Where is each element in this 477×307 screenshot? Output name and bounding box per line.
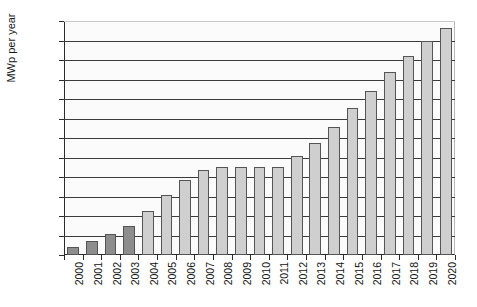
x-tick-label: 2016 bbox=[364, 262, 378, 302]
x-tick-label-text: 2006 bbox=[185, 262, 197, 285]
x-tick-label: 2005 bbox=[159, 262, 173, 302]
bar bbox=[309, 143, 321, 255]
bar bbox=[421, 41, 433, 255]
bar bbox=[86, 241, 98, 255]
x-tick-label-text: 2017 bbox=[390, 262, 402, 285]
x-tick-label-text: 2003 bbox=[129, 262, 141, 285]
bar bbox=[123, 226, 135, 255]
x-tick-label: 2004 bbox=[141, 262, 155, 302]
x-tick-mark bbox=[250, 255, 251, 260]
x-tick-label-text: 2013 bbox=[315, 262, 327, 285]
x-tick-label-text: 2019 bbox=[427, 262, 439, 285]
x-tick-mark bbox=[213, 255, 214, 260]
x-tick-label: 2008 bbox=[215, 262, 229, 302]
bar bbox=[216, 167, 228, 255]
x-tick-label-text: 2008 bbox=[222, 262, 234, 285]
x-tick-label: 2013 bbox=[308, 262, 322, 302]
x-tick-mark bbox=[399, 255, 400, 260]
x-tick-label: 2003 bbox=[122, 262, 136, 302]
bar bbox=[272, 167, 284, 255]
x-tick-label: 2001 bbox=[85, 262, 99, 302]
x-tick-mark bbox=[436, 255, 437, 260]
bar bbox=[291, 156, 303, 255]
bar bbox=[179, 180, 191, 255]
bar bbox=[67, 247, 79, 255]
x-tick-mark bbox=[101, 255, 102, 260]
x-tick-mark bbox=[287, 255, 288, 260]
x-tick-label: 2007 bbox=[197, 262, 211, 302]
x-tick-label-text: 2007 bbox=[204, 262, 216, 285]
x-tick-mark bbox=[232, 255, 233, 260]
x-tick-label: 2012 bbox=[290, 262, 304, 302]
bar bbox=[105, 234, 117, 255]
x-tick-mark bbox=[176, 255, 177, 260]
x-tick-label-text: 2015 bbox=[353, 262, 365, 285]
bar bbox=[384, 72, 396, 255]
x-tick-mark bbox=[64, 255, 65, 260]
x-tick-label-text: 2016 bbox=[371, 262, 383, 285]
bar bbox=[198, 170, 210, 255]
x-tick-mark bbox=[138, 255, 139, 260]
x-tick-label-text: 2005 bbox=[166, 262, 178, 285]
bar bbox=[403, 56, 415, 255]
x-tick-label: 2018 bbox=[401, 262, 415, 302]
bar bbox=[254, 167, 266, 255]
x-tick-label: 2011 bbox=[271, 262, 285, 302]
bar bbox=[161, 195, 173, 255]
x-tick-label: 2014 bbox=[327, 262, 341, 302]
x-tick-mark bbox=[455, 255, 456, 260]
bar-series bbox=[64, 21, 455, 255]
x-tick-mark bbox=[418, 255, 419, 260]
x-tick-label: 2015 bbox=[346, 262, 360, 302]
x-tick-label: 2002 bbox=[104, 262, 118, 302]
x-tick-label: 2020 bbox=[439, 262, 453, 302]
bar bbox=[440, 28, 452, 255]
x-tick-label-text: 2004 bbox=[148, 262, 160, 285]
x-tick-label-text: 2001 bbox=[92, 262, 104, 285]
x-tick-mark bbox=[381, 255, 382, 260]
x-tick-label-text: 2014 bbox=[334, 262, 346, 285]
x-tick-label-text: 2012 bbox=[297, 262, 309, 285]
x-tick-mark bbox=[120, 255, 121, 260]
bar bbox=[328, 127, 340, 255]
bar bbox=[142, 211, 154, 255]
bar bbox=[235, 167, 247, 255]
x-tick-label-text: 2000 bbox=[73, 262, 85, 285]
bar bbox=[347, 108, 359, 255]
x-tick-mark bbox=[194, 255, 195, 260]
x-tick-label: 2019 bbox=[420, 262, 434, 302]
x-tick-label: 2017 bbox=[383, 262, 397, 302]
y-axis-title-text: MWp per year bbox=[5, 13, 17, 82]
x-tick-label: 2000 bbox=[66, 262, 80, 302]
x-tick-mark bbox=[362, 255, 363, 260]
x-tick-mark bbox=[269, 255, 270, 260]
x-tick-label-text: 2018 bbox=[408, 262, 420, 285]
x-tick-mark bbox=[325, 255, 326, 260]
x-tick-label-text: 2010 bbox=[260, 262, 272, 285]
x-tick-label-text: 2020 bbox=[446, 262, 458, 285]
y-axis-title: MWp per year bbox=[0, 0, 22, 240]
x-tick-mark bbox=[83, 255, 84, 260]
x-tick-label: 2009 bbox=[234, 262, 248, 302]
x-tick-label-text: 2009 bbox=[241, 262, 253, 285]
x-tick-mark bbox=[343, 255, 344, 260]
bar-chart: MWp per year 050010001500200025003000350… bbox=[0, 0, 477, 307]
x-tick-label: 2006 bbox=[178, 262, 192, 302]
x-tick-mark bbox=[157, 255, 158, 260]
bar bbox=[365, 91, 377, 255]
x-tick-label: 2010 bbox=[253, 262, 267, 302]
x-tick-label-text: 2011 bbox=[278, 262, 290, 285]
x-tick-mark bbox=[306, 255, 307, 260]
x-tick-label-text: 2002 bbox=[111, 262, 123, 285]
